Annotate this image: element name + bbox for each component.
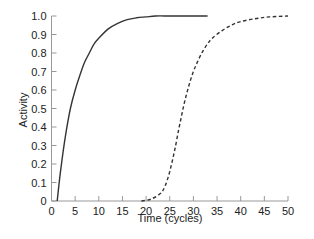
y-tick-label: 0.6 [31, 84, 46, 96]
x-tick-label: 0 [48, 205, 54, 217]
data-series [57, 16, 288, 201]
x-axis-label: Time (cycles) [138, 212, 203, 224]
x-tick-label: 45 [258, 205, 270, 217]
y-tick-label: 0.4 [31, 121, 46, 133]
x-tick-label: 10 [93, 205, 105, 217]
y-axis-label: Activity [17, 92, 29, 127]
y-tick-label: 0.5 [31, 103, 46, 115]
line-chart: 00.10.20.30.40.50.60.70.80.91.0 05101520… [0, 0, 314, 239]
series-solid-line [57, 16, 207, 201]
y-tick-label: 0.3 [31, 140, 46, 152]
x-tick-label: 50 [282, 205, 294, 217]
y-tick-label: 0.2 [31, 158, 46, 170]
y-tick-label: 0.7 [31, 66, 46, 78]
y-tick-label: 1.0 [31, 10, 46, 22]
x-tick-label: 5 [72, 205, 78, 217]
x-tick-label: 15 [116, 205, 128, 217]
y-axis-ticks: 00.10.20.30.40.50.60.70.80.91.0 [31, 10, 56, 207]
x-tick-label: 40 [235, 205, 247, 217]
y-tick-label: 0.8 [31, 47, 46, 59]
series-dashed-line [141, 16, 288, 201]
y-tick-label: 0 [40, 195, 46, 207]
x-tick-label: 35 [211, 205, 223, 217]
y-tick-label: 0.9 [31, 29, 46, 41]
y-tick-label: 0.1 [31, 177, 46, 189]
